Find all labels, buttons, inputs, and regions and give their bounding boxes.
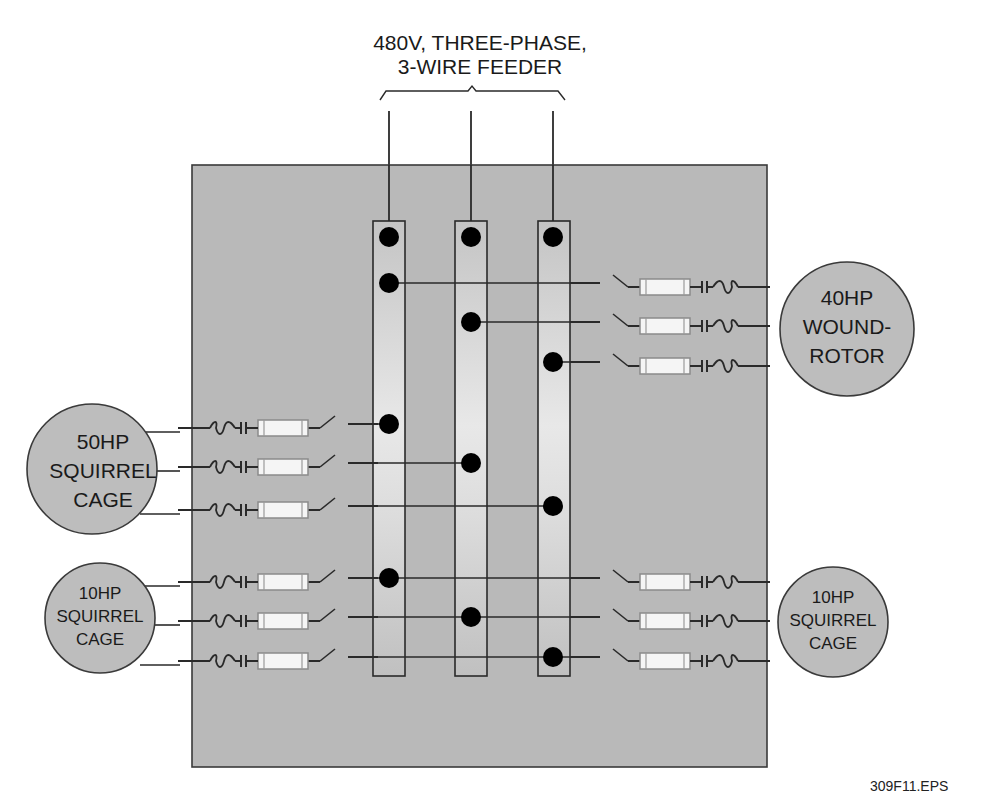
svg-text:SQUIRREL: SQUIRREL [790, 611, 877, 630]
svg-text:40HP: 40HP [821, 286, 874, 309]
feeder-title-line1: 480V, THREE-PHASE, [300, 31, 660, 55]
svg-text:10HP: 10HP [812, 588, 855, 607]
motor-50hp-squirrel-cage: 50HP SQUIRREL CAGE [27, 404, 157, 534]
motor-10hp-left-squirrel-cage: 10HP SQUIRREL CAGE [45, 563, 155, 673]
svg-text:50HP: 50HP [77, 430, 130, 453]
svg-text:SQUIRREL: SQUIRREL [57, 607, 144, 626]
busbar-phase-c [538, 221, 570, 676]
figure-caption: 309F11.EPS [870, 778, 948, 794]
svg-text:CAGE: CAGE [76, 630, 124, 649]
feeder-title-line2: 3-WIRE FEEDER [300, 55, 660, 79]
svg-text:ROTOR: ROTOR [809, 344, 884, 367]
svg-text:CAGE: CAGE [73, 488, 133, 511]
svg-text:WOUND-: WOUND- [803, 315, 892, 338]
svg-text:10HP: 10HP [79, 584, 122, 603]
motor-40hp-wound-rotor: 40HP WOUND- ROTOR [780, 262, 914, 396]
svg-text:CAGE: CAGE [809, 634, 857, 653]
feeder-title: 480V, THREE-PHASE, 3-WIRE FEEDER [300, 31, 660, 79]
motor-10hp-right-squirrel-cage: 10HP SQUIRREL CAGE [778, 567, 888, 677]
svg-text:SQUIRREL: SQUIRREL [49, 459, 156, 482]
feeder-diagram: 40HP WOUND- ROTOR 50HP SQUIRREL CAGE 10H… [0, 0, 988, 803]
